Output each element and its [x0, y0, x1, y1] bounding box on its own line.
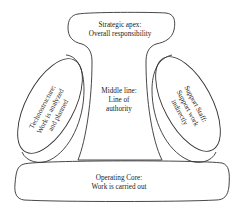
middle-line-desc-1: Line of — [92, 96, 146, 105]
strategic-apex-title: Strategic apex: — [68, 21, 172, 30]
operating-core-desc: Work is carried out — [60, 183, 178, 192]
mintzberg-diagram: Strategic apex: Overall responsibility M… — [0, 0, 238, 212]
middle-line-desc-2: authority — [92, 105, 146, 114]
strategic-apex-desc: Overall responsibility — [68, 30, 172, 39]
operating-core-title: Operating Core: — [60, 174, 178, 183]
middle-line-label: Middle line: Line of authority — [92, 87, 146, 114]
operating-core-label: Operating Core: Work is carried out — [60, 174, 178, 192]
strategic-apex-label: Strategic apex: Overall responsibility — [68, 21, 172, 39]
middle-line-title: Middle line: — [92, 87, 146, 96]
